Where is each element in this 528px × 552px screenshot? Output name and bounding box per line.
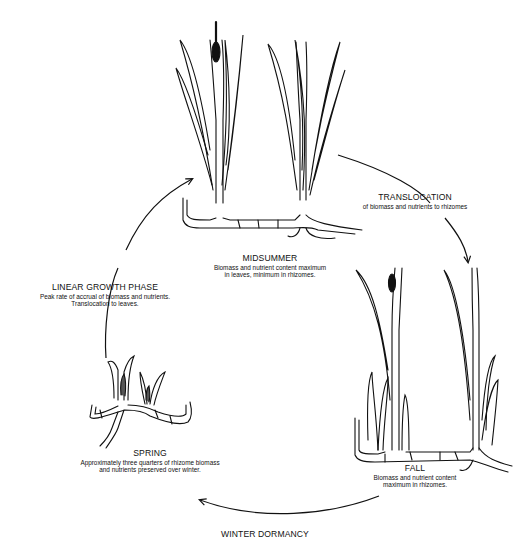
spring-plants-icon bbox=[90, 356, 191, 448]
spring-label: SPRING Approximately three quarters of r… bbox=[50, 449, 250, 474]
winter-dormancy-title: WINTER DORMANCY bbox=[210, 530, 320, 540]
cattail-cycle-diagram: MIDSUMMER Biomass and nutrient content m… bbox=[0, 0, 528, 552]
translocation-title: TRANSLOCATION bbox=[340, 193, 490, 203]
midsummer-desc-line-1: Biomass and nutrient content maximum bbox=[190, 264, 350, 271]
spring-desc-line-1: Approximately three quarters of rhizome … bbox=[50, 459, 250, 466]
midsummer-desc-line-2: in leaves, minimum in rhizomes. bbox=[190, 271, 350, 278]
midsummer-title: MIDSUMMER bbox=[190, 254, 350, 264]
linear-growth-label: LINEAR GROWTH PHASE Peak rate of accrual… bbox=[15, 283, 195, 308]
fall-title: FALL bbox=[355, 464, 475, 474]
spring-desc-line-2: and nutrients preserved over winter. bbox=[50, 466, 250, 473]
fall-label: FALL Biomass and nutrient content maximu… bbox=[355, 464, 475, 489]
linear-growth-desc-line-2: Translocation to leaves. bbox=[15, 300, 195, 307]
fall-desc-line-2: maximum in rhizomes. bbox=[355, 481, 475, 488]
fall-plants-icon bbox=[355, 268, 512, 472]
arrow-linear-growth bbox=[106, 179, 193, 358]
translocation-label: TRANSLOCATION of biomass and nutrients t… bbox=[340, 193, 490, 210]
linear-growth-desc-line-1: Peak rate of accrual of biomass and nutr… bbox=[15, 293, 195, 300]
spring-title: SPRING bbox=[50, 449, 250, 459]
fall-desc-line-1: Biomass and nutrient content bbox=[355, 474, 475, 481]
translocation-desc-line-1: of biomass and nutrients to rhizomes bbox=[340, 203, 490, 210]
arrow-winter-dormancy bbox=[200, 496, 379, 514]
winter-dormancy-label: WINTER DORMANCY bbox=[210, 530, 320, 540]
midsummer-label: MIDSUMMER Biomass and nutrient content m… bbox=[190, 254, 350, 279]
midsummer-plants-icon bbox=[176, 22, 362, 239]
linear-growth-title: LINEAR GROWTH PHASE bbox=[15, 283, 195, 293]
